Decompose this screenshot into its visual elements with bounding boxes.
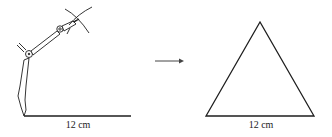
segment-length-label-left: 12 cm bbox=[66, 119, 91, 130]
equilateral-triangle bbox=[206, 22, 314, 116]
arrow-right-icon bbox=[155, 59, 184, 64]
construction-diagram bbox=[0, 0, 332, 137]
segment-length-label-right: 12 cm bbox=[249, 119, 274, 130]
compass-icon bbox=[17, 19, 79, 116]
